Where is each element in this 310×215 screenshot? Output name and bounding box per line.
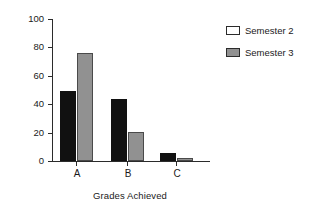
y-tick-label-40: 40: [22, 99, 44, 109]
legend-swatch-icon-semester-3: [226, 48, 240, 57]
y-tick-label-80: 80: [22, 42, 44, 52]
y-tick-label-60: 60: [22, 71, 44, 81]
legend-label-semester-3: Semester 3: [245, 47, 294, 58]
bar-semester2-C: [160, 153, 176, 162]
x-axis-title: Grades Achieved: [40, 190, 220, 201]
y-tick-mark-20: [48, 133, 52, 134]
y-tick-mark-100: [48, 19, 52, 20]
y-tick-label-100: 100: [22, 14, 44, 24]
legend-label-semester-2: Semester 2: [245, 25, 294, 36]
chart-legend: Semester 2 Semester 3: [226, 24, 308, 68]
plot-area: 0 20 40 60 80 100 A B C: [52, 19, 210, 161]
bar-semester3-B: [128, 132, 144, 161]
y-axis-line: [52, 19, 53, 161]
legend-item-semester-2: Semester 2: [226, 24, 308, 37]
y-tick-label-0: 0: [22, 156, 44, 166]
x-tick-label-C: C: [162, 168, 192, 180]
y-tick-label-20: 20: [22, 128, 44, 138]
x-tick-mark-B: [127, 162, 128, 166]
bar-semester2-A: [60, 91, 76, 161]
y-tick-mark-80: [48, 47, 52, 48]
x-tick-label-A: A: [62, 168, 92, 180]
legend-item-semester-3: Semester 3: [226, 46, 308, 59]
bar-semester3-A: [77, 53, 93, 161]
x-tick-label-B: B: [113, 168, 143, 180]
bar-semester2-B: [111, 99, 127, 162]
x-tick-mark-A: [76, 162, 77, 166]
x-tick-mark-C: [176, 162, 177, 166]
legend-swatch-icon-semester-2: [226, 26, 240, 35]
bar-semester3-C: [177, 158, 193, 161]
y-tick-mark-40: [48, 104, 52, 105]
chart-figure: Percentage of Students 0 20 40 60 80 100: [0, 0, 310, 215]
y-tick-mark-0: [48, 161, 52, 162]
y-tick-mark-60: [48, 76, 52, 77]
